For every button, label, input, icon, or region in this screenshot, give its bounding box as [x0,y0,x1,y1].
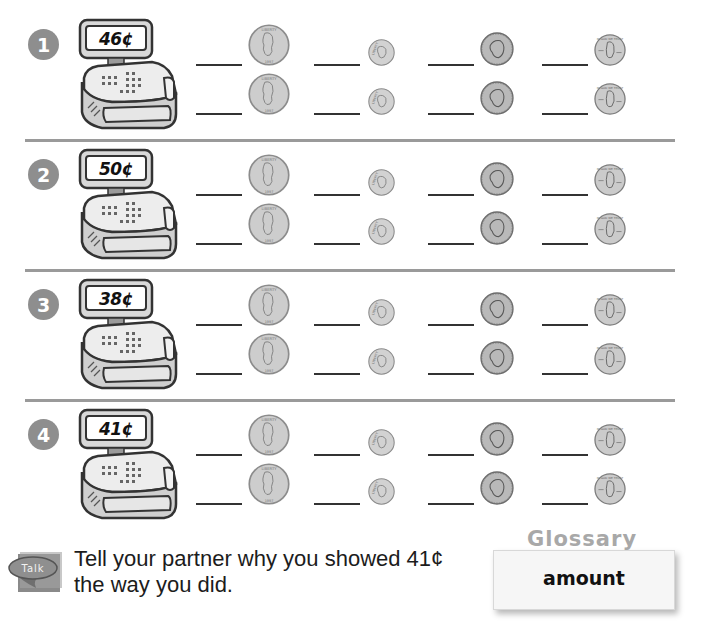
quarter-count-blank[interactable] [196,113,242,115]
dime-icon: LIBERTY [368,429,395,456]
penny-icon: IN GOD WE TRUST [594,83,626,115]
talk-icon: Talk [6,548,64,594]
svg-text:LIBERTY: LIBERTY [261,206,277,211]
quarter-count-blank[interactable] [196,373,242,375]
nickel-count-blank[interactable] [428,64,474,66]
quarter-count-blank[interactable] [196,454,242,456]
svg-text:IN GOD WE TRUST: IN GOD WE TRUST [597,346,624,350]
problem-number-badge: 4 [28,419,59,450]
talk-prompt: Tell your partner why you showed 41¢ the… [74,546,443,598]
dime-count-blank[interactable] [314,194,360,196]
quarter-count-blank[interactable] [196,194,242,196]
svg-text:IN GOD WE TRUST: IN GOD WE TRUST [597,216,624,220]
svg-text:1997: 1997 [265,369,274,373]
nickel-count-blank[interactable] [428,324,474,326]
dime-count-blank[interactable] [314,64,360,66]
svg-text:LIBERTY: LIBERTY [261,417,277,422]
nickel-icon [480,162,514,196]
svg-text:IN GOD WE TRUST: IN GOD WE TRUST [597,167,624,171]
penny-icon: IN GOD WE TRUST [594,424,626,456]
price-display: 50¢ [88,158,144,180]
nickel-icon [480,292,514,326]
penny-count-blank[interactable] [542,243,588,245]
dime-count-blank[interactable] [314,243,360,245]
svg-text:IN GOD WE TRUST: IN GOD WE TRUST [597,476,624,480]
svg-text:IN GOD WE TRUST: IN GOD WE TRUST [597,37,624,41]
price-display: 38¢ [88,288,144,310]
nickel-count-blank[interactable] [428,503,474,505]
penny-icon: IN GOD WE TRUST [594,164,626,196]
problem-2: 250¢LIBERTY1997LIBERTYIN GOD WE TRUSTLIB… [0,140,703,270]
dime-count-blank[interactable] [314,454,360,456]
penny-count-blank[interactable] [542,503,588,505]
quarter-count-blank[interactable] [196,324,242,326]
svg-text:1997: 1997 [265,239,274,243]
problem-number-badge: 3 [28,289,59,320]
penny-count-blank[interactable] [542,373,588,375]
svg-text:1997: 1997 [265,109,274,113]
svg-text:LIBERTY: LIBERTY [261,157,277,162]
svg-text:IN GOD WE TRUST: IN GOD WE TRUST [597,427,624,431]
svg-text:Talk: Talk [20,563,44,574]
problem-3: 338¢LIBERTY1997LIBERTYIN GOD WE TRUSTLIB… [0,270,703,400]
penny-count-blank[interactable] [542,64,588,66]
svg-text:LIBERTY: LIBERTY [261,76,277,81]
nickel-icon [480,471,514,505]
svg-text:1997: 1997 [265,190,274,194]
problem-4: 441¢LIBERTY1997LIBERTYIN GOD WE TRUSTLIB… [0,400,703,530]
svg-text:1997: 1997 [265,450,274,454]
glossary-title: Glossary [527,527,637,551]
dime-icon: LIBERTY [368,478,395,505]
quarter-count-blank[interactable] [196,243,242,245]
nickel-count-blank[interactable] [428,454,474,456]
penny-count-blank[interactable] [542,113,588,115]
quarter-icon: LIBERTY1997 [248,284,290,326]
nickel-icon [480,211,514,245]
problem-1: 146¢LIBERTY1997LIBERTYIN GOD WE TRUSTLIB… [0,10,703,140]
svg-text:IN GOD WE TRUST: IN GOD WE TRUST [597,297,624,301]
penny-icon: IN GOD WE TRUST [594,343,626,375]
dime-count-blank[interactable] [314,373,360,375]
penny-icon: IN GOD WE TRUST [594,294,626,326]
dime-count-blank[interactable] [314,113,360,115]
nickel-icon [480,81,514,115]
nickel-count-blank[interactable] [428,113,474,115]
nickel-count-blank[interactable] [428,373,474,375]
glossary-card: amount [493,550,675,610]
penny-count-blank[interactable] [542,324,588,326]
svg-text:LIBERTY: LIBERTY [261,27,277,32]
svg-text:LIBERTY: LIBERTY [261,466,277,471]
nickel-icon [480,422,514,456]
penny-icon: IN GOD WE TRUST [594,34,626,66]
dime-icon: LIBERTY [368,218,395,245]
quarter-icon: LIBERTY1997 [248,463,290,505]
cash-register-icon: 38¢ [72,276,182,394]
dime-count-blank[interactable] [314,503,360,505]
quarter-count-blank[interactable] [196,64,242,66]
penny-count-blank[interactable] [542,194,588,196]
nickel-icon [480,32,514,66]
svg-text:LIBERTY: LIBERTY [261,336,277,341]
prompt-line-1: Tell your partner why you showed 41¢ [74,546,443,572]
price-display: 41¢ [88,418,144,440]
quarter-icon: LIBERTY1997 [248,333,290,375]
quarter-icon: LIBERTY1997 [248,414,290,456]
nickel-count-blank[interactable] [428,194,474,196]
quarter-icon: LIBERTY1997 [248,73,290,115]
dime-count-blank[interactable] [314,324,360,326]
dime-icon: LIBERTY [368,348,395,375]
quarter-count-blank[interactable] [196,503,242,505]
dime-icon: LIBERTY [368,169,395,196]
cash-register-icon: 50¢ [72,146,182,264]
svg-text:1997: 1997 [265,320,274,324]
quarter-icon: LIBERTY1997 [248,203,290,245]
penny-count-blank[interactable] [542,454,588,456]
nickel-icon [480,341,514,375]
nickel-count-blank[interactable] [428,243,474,245]
dime-icon: LIBERTY [368,299,395,326]
quarter-icon: LIBERTY1997 [248,24,290,66]
price-display: 46¢ [88,28,144,50]
dime-icon: LIBERTY [368,88,395,115]
penny-icon: IN GOD WE TRUST [594,213,626,245]
svg-text:LIBERTY: LIBERTY [261,287,277,292]
